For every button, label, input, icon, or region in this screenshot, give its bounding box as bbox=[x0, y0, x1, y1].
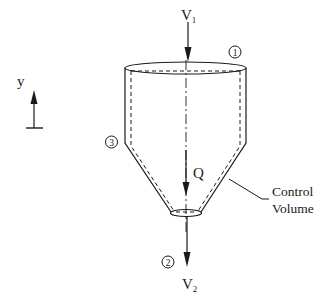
control-volume-diagram: y V1 1 bbox=[0, 0, 336, 304]
svg-text:3: 3 bbox=[109, 138, 114, 148]
control-volume-callout: Control Volume bbox=[229, 179, 314, 216]
diagram-canvas: y V1 1 bbox=[0, 0, 336, 304]
control-volume-label-line1: Control bbox=[272, 184, 314, 199]
heat-transfer-label: Q bbox=[193, 165, 204, 181]
inlet-velocity-label: V1 bbox=[181, 7, 196, 25]
station-3-marker: 3 bbox=[106, 136, 118, 148]
svg-text:2: 2 bbox=[166, 258, 171, 268]
y-axis-label: y bbox=[17, 73, 25, 89]
station-2-marker: 2 bbox=[162, 256, 174, 268]
y-axis-indicator: y bbox=[17, 73, 43, 128]
arrow-down-icon bbox=[183, 182, 190, 196]
control-volume-label-line2: Volume bbox=[272, 201, 314, 216]
outlet-velocity-arrow: V2 bbox=[182, 216, 197, 294]
station-1-marker: 1 bbox=[229, 46, 241, 58]
inlet-velocity-arrow: V1 bbox=[181, 7, 196, 62]
svg-text:1: 1 bbox=[233, 48, 238, 58]
arrow-down-icon bbox=[184, 252, 191, 267]
arrow-down-icon bbox=[185, 47, 192, 62]
arrow-up-icon bbox=[31, 90, 38, 104]
heat-transfer-arrow: Q bbox=[183, 150, 205, 196]
outlet-velocity-label: V2 bbox=[182, 276, 197, 294]
